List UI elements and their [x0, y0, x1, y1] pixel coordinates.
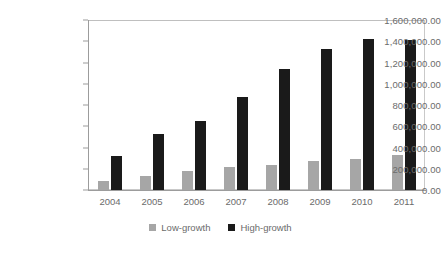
bar-group	[299, 20, 341, 190]
bar-low-growth	[350, 159, 361, 190]
x-axis-tick-label: 2004	[99, 196, 120, 207]
y-axis-tick-label: 200,000.00	[363, 163, 441, 174]
bar-low-growth	[182, 171, 193, 190]
y-axis-tick-label: 1,400,000.00	[363, 36, 441, 47]
bar-low-growth	[308, 161, 319, 190]
x-axis-tick-label: 2011	[394, 196, 414, 207]
bar-high-growth	[279, 69, 290, 190]
y-axis-tick-mark	[83, 83, 88, 84]
x-axis-tick-label: 2005	[141, 196, 162, 207]
y-axis-tick-label: 800,000.00	[363, 100, 441, 111]
legend-item[interactable]: Low-growth	[149, 222, 210, 233]
bar-group	[89, 20, 131, 190]
y-axis-tick-mark	[83, 126, 88, 127]
y-axis-tick-mark	[83, 105, 88, 106]
y-axis-tick-label: 1,200,000.00	[363, 57, 441, 68]
bar-low-growth	[98, 181, 109, 190]
y-axis-tick-mark	[83, 147, 88, 148]
y-axis-tick-mark	[83, 20, 88, 21]
bar-high-growth	[321, 49, 332, 190]
bar-group	[173, 20, 215, 190]
bar-group	[215, 20, 257, 190]
bar-group	[257, 20, 299, 190]
legend-label: High-growth	[240, 222, 291, 233]
y-axis-tick-label: 1,000,000.00	[363, 78, 441, 89]
y-axis-tick-mark	[83, 168, 88, 169]
x-axis-tick-label: 2007	[225, 196, 246, 207]
bar-low-growth	[266, 165, 277, 191]
bar-high-growth	[237, 97, 248, 191]
bar-low-growth	[140, 176, 151, 190]
y-axis-tick-label: 0.00	[363, 185, 441, 196]
x-axis-tick-label: 2008	[267, 196, 288, 207]
bar-chart: Low-growthHigh-growth 0.00200,000.00400,…	[0, 0, 441, 268]
legend-swatch-icon	[228, 224, 235, 231]
bar-high-growth	[153, 134, 164, 190]
bar-low-growth	[224, 167, 235, 190]
y-axis-tick-mark	[83, 62, 88, 63]
y-axis-tick-label: 600,000.00	[363, 121, 441, 132]
y-axis-tick-label: 400,000.00	[363, 142, 441, 153]
bar-high-growth	[195, 121, 206, 190]
legend-item[interactable]: High-growth	[228, 222, 291, 233]
x-axis-tick-label: 2009	[309, 196, 330, 207]
legend-swatch-icon	[149, 224, 156, 231]
bar-high-growth	[111, 156, 122, 190]
y-axis-tick-mark	[83, 41, 88, 42]
legend-label: Low-growth	[161, 222, 210, 233]
y-axis-tick-mark	[83, 190, 88, 191]
bar-group	[131, 20, 173, 190]
chart-legend: Low-growthHigh-growth	[0, 222, 441, 233]
y-axis-tick-label: 1,600,000.00	[363, 15, 441, 26]
x-axis-tick-label: 2006	[183, 196, 204, 207]
x-axis-tick-label: 2010	[351, 196, 372, 207]
